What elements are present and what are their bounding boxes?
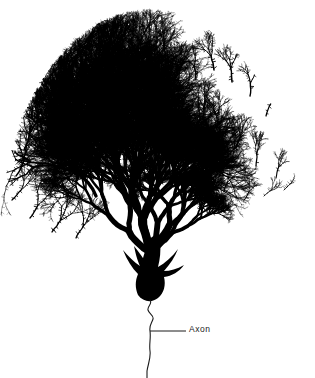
neuron-drawing [0,0,315,378]
purkinje-cell-figure: Axon [0,0,315,378]
dendrite-path [169,205,170,226]
axon-label: Axon [189,324,210,335]
